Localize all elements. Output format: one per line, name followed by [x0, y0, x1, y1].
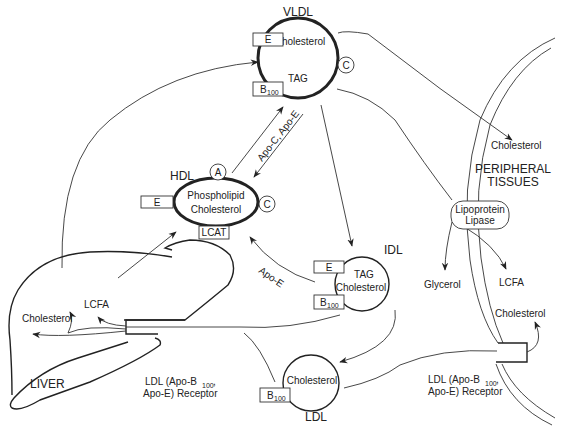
liver-labels: Cholesterol LCFA LIVER LDL (Apo-B 100 , …: [22, 299, 218, 399]
svg-text:Apo-E) Receptor: Apo-E) Receptor: [143, 388, 218, 399]
svg-text:TISSUES: TISSUES: [487, 175, 538, 189]
svg-text:Glycerol: Glycerol: [424, 279, 461, 290]
apo-transfer-label: Apo-C, Apo-E: [255, 108, 302, 163]
svg-text:E: E: [265, 34, 272, 45]
svg-text:Cholesterol: Cholesterol: [495, 308, 546, 319]
liver-ldl-receptor: [126, 320, 240, 334]
liver-title: LIVER: [30, 377, 65, 391]
svg-text:Lipase: Lipase: [465, 215, 495, 226]
svg-text:LCFA: LCFA: [499, 277, 524, 288]
peripheral-labels: Cholesterol PERIPHERAL TISSUES Lipoprote…: [424, 140, 551, 397]
svg-text:Cholesterol: Cholesterol: [491, 140, 542, 151]
svg-text:B: B: [260, 84, 267, 95]
svg-text:,: ,: [496, 374, 499, 385]
svg-text:B: B: [267, 390, 274, 401]
svg-text:Cholesterol: Cholesterol: [287, 375, 338, 386]
svg-text:100: 100: [274, 395, 286, 402]
svg-text:Cholesterol: Cholesterol: [22, 313, 73, 324]
ldl-particle: Cholesterol LDL B 100: [260, 355, 339, 424]
svg-text:Apo-E) Receptor: Apo-E) Receptor: [428, 386, 503, 397]
vldl-particle: VLDL Cholesterol TAG E B 100 C: [253, 5, 354, 98]
svg-text:C: C: [342, 60, 349, 71]
svg-text:B: B: [320, 297, 327, 308]
svg-text:100: 100: [327, 302, 339, 309]
svg-text:LCFA: LCFA: [84, 299, 109, 310]
ldl-title: LDL: [305, 410, 327, 424]
svg-text:Lipoprotein: Lipoprotein: [455, 204, 504, 215]
svg-text:100: 100: [267, 89, 279, 96]
svg-text:A: A: [215, 167, 222, 178]
lipoprotein-metabolism-diagram: VLDL Cholesterol TAG E B 100 C HDL Phosp…: [0, 0, 561, 427]
svg-text:E: E: [154, 197, 161, 208]
idl-particle: IDL TAG Cholesterol E B 100: [314, 243, 403, 311]
apo-e-label: Apo-E: [257, 265, 286, 290]
svg-text:Cholesterol: Cholesterol: [336, 282, 387, 293]
svg-text:LCAT: LCAT: [202, 227, 227, 238]
svg-text:,: ,: [213, 376, 216, 387]
svg-text:LDL (Apo-B: LDL (Apo-B: [145, 376, 197, 387]
vldl-tag: TAG: [288, 73, 308, 84]
svg-text:Phospholipid: Phospholipid: [187, 190, 244, 201]
hdl-title: HDL: [170, 169, 194, 183]
peripheral-membrane: [467, 38, 555, 425]
svg-text:TAG: TAG: [354, 269, 374, 280]
svg-text:Cholesterol: Cholesterol: [191, 204, 242, 215]
svg-text:C: C: [263, 199, 270, 210]
idl-title: IDL: [384, 243, 403, 257]
vldl-title: VLDL: [283, 5, 313, 19]
svg-text:LDL (Apo-B: LDL (Apo-B: [428, 374, 480, 385]
svg-text:PERIPHERAL: PERIPHERAL: [475, 162, 551, 176]
svg-text:E: E: [326, 262, 333, 273]
